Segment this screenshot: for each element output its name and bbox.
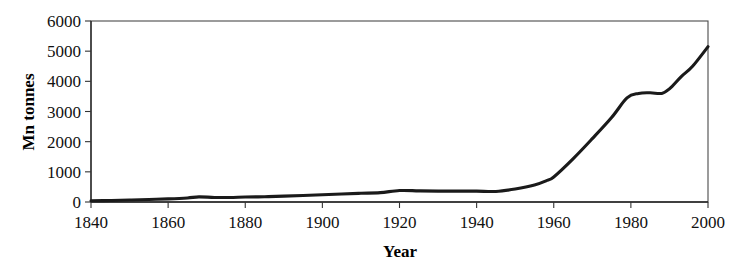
y-axis-ticks [85,21,91,202]
x-tick-label: 1900 [305,213,339,232]
y-tick-label: 2000 [47,133,81,152]
y-tick-label: 6000 [47,12,81,31]
x-tick-label: 1920 [383,213,417,232]
x-tick-label: 1880 [228,213,262,232]
y-axis-title: Mn tonnes [19,73,38,150]
x-axis-ticks [91,202,708,208]
x-tick-label: 1860 [151,213,185,232]
y-tick-label: 3000 [47,103,81,122]
x-axis-title: Year [383,242,417,261]
line-chart: 0100020003000400050006000 18401860188019… [0,0,741,272]
y-tick-label: 4000 [47,72,81,91]
y-axis-tick-labels: 0100020003000400050006000 [47,12,81,212]
x-tick-label: 1840 [74,213,108,232]
x-tick-label: 1940 [460,213,494,232]
x-tick-label: 1960 [537,213,571,232]
chart-canvas: 0100020003000400050006000 18401860188019… [0,0,741,272]
x-tick-label: 1980 [614,213,648,232]
y-tick-label: 0 [73,193,82,212]
y-tick-label: 5000 [47,42,81,61]
x-axis-tick-labels: 184018601880190019201940196019802000 [74,213,725,232]
y-tick-label: 1000 [47,163,81,182]
x-tick-label: 2000 [691,213,725,232]
